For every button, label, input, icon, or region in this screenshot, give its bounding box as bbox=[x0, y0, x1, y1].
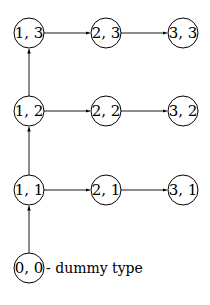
node-3-1: 3, 1 bbox=[168, 175, 198, 205]
nodes: 1, 32, 33, 31, 22, 23, 21, 12, 13, 10, 0 bbox=[14, 18, 198, 283]
node-label: 2, 2 bbox=[92, 102, 121, 120]
node-3-3: 3, 3 bbox=[168, 18, 198, 48]
dummy-type-label: - dummy type bbox=[46, 260, 143, 276]
node-label: 2, 3 bbox=[92, 24, 121, 42]
node-0-0: 0, 0 bbox=[14, 253, 44, 283]
edges bbox=[29, 33, 167, 253]
node-1-3: 1, 3 bbox=[14, 18, 44, 48]
node-label: 1, 2 bbox=[15, 102, 44, 120]
node-label: 2, 1 bbox=[92, 181, 121, 199]
node-1-1: 1, 1 bbox=[14, 175, 44, 205]
node-2-3: 2, 3 bbox=[91, 18, 121, 48]
node-label: 3, 3 bbox=[169, 24, 198, 42]
node-1-2: 1, 2 bbox=[14, 96, 44, 126]
node-label: 1, 1 bbox=[15, 181, 44, 199]
node-3-2: 3, 2 bbox=[168, 96, 198, 126]
node-2-1: 2, 1 bbox=[91, 175, 121, 205]
grid-diagram: 1, 32, 33, 31, 22, 23, 21, 12, 13, 10, 0… bbox=[0, 0, 210, 305]
node-label: 0, 0 bbox=[15, 259, 44, 277]
node-2-2: 2, 2 bbox=[91, 96, 121, 126]
node-label: 3, 1 bbox=[169, 181, 198, 199]
node-label: 1, 3 bbox=[15, 24, 44, 42]
node-label: 3, 2 bbox=[169, 102, 198, 120]
